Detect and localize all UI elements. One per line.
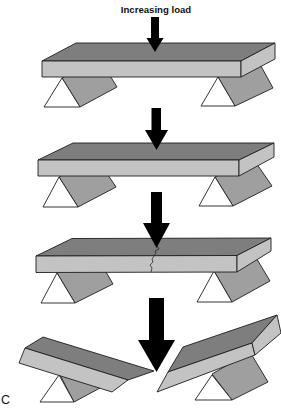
beam-front-face bbox=[38, 160, 239, 176]
stage-3 bbox=[36, 192, 271, 303]
beam bbox=[42, 43, 275, 77]
beam-fracture-diagram: Increasing load bbox=[0, 0, 281, 408]
load-arrow-icon bbox=[138, 298, 175, 372]
stage-1 bbox=[42, 17, 275, 107]
stage-4 bbox=[19, 298, 281, 402]
load-label: Increasing load bbox=[121, 4, 192, 15]
panel-label: C bbox=[1, 393, 10, 407]
left-beam-fragment bbox=[19, 337, 154, 392]
diagram-canvas: Increasing load bbox=[0, 0, 281, 408]
beam bbox=[36, 238, 271, 273]
beam-front-face bbox=[36, 256, 237, 273]
beam-front-face bbox=[42, 61, 241, 77]
